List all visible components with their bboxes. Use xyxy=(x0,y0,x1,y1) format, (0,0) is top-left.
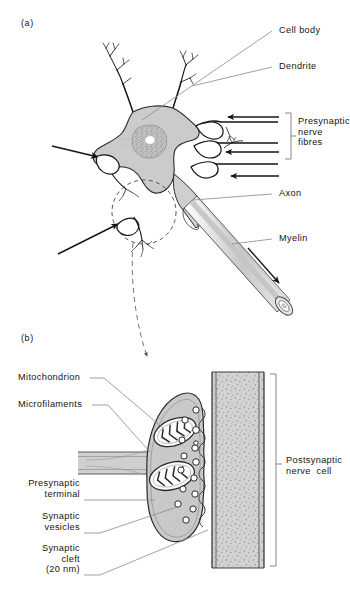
panel-b-diagram xyxy=(78,372,282,575)
label-dendrite: Dendrite xyxy=(279,61,317,72)
presynaptic-nerve-fibres-right xyxy=(191,117,279,178)
presynaptic-fibre-left-lower xyxy=(58,217,154,257)
label-microfilaments: Microfilaments xyxy=(18,399,82,410)
leader-microfilaments xyxy=(92,405,150,452)
panel-b-tag: (b) xyxy=(21,333,34,343)
panel-a-tag: (a) xyxy=(21,18,34,28)
postsynaptic-nerve-cell xyxy=(212,372,264,568)
nucleolus xyxy=(145,136,155,145)
label-mitochondrion: Mitochondrion xyxy=(18,372,80,383)
leader-dendrite xyxy=(192,67,272,86)
presynaptic-fibres-bracket xyxy=(285,113,296,159)
axon-stalk xyxy=(78,448,154,478)
label-presynaptic-nerve-fibres: Presynaptic nerve fibres xyxy=(298,116,350,148)
leader-mitochondrion xyxy=(90,378,163,428)
label-postsynaptic-nerve-cell: Postsynaptic nerve cell xyxy=(286,455,342,476)
leader-cell-body xyxy=(142,31,272,120)
label-synaptic-cleft: Synaptic cleft (20 nm) xyxy=(0,543,80,575)
label-cell-body: Cell body xyxy=(279,25,320,36)
zoom-callout xyxy=(112,180,176,356)
panel-a-diagram xyxy=(52,31,296,356)
label-presynaptic-terminal: Presynaptic terminal xyxy=(0,478,80,499)
leader-axon xyxy=(193,194,272,200)
label-myelin: Myelin xyxy=(279,233,308,244)
label-axon: Axon xyxy=(279,188,301,199)
dendrite-branches xyxy=(103,43,198,112)
callout-connector-line xyxy=(132,243,147,356)
label-synaptic-vesicles: Synaptic vesicles xyxy=(0,511,80,532)
myelinated-axon xyxy=(173,174,296,318)
postsynaptic-bracket xyxy=(270,374,282,566)
